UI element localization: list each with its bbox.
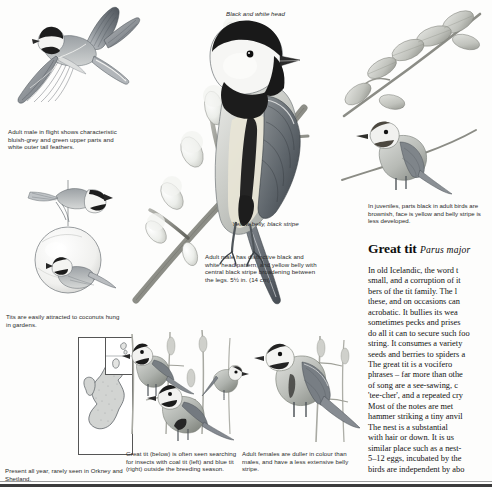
field-guide-page: Adult male in flight shows characteristi… <box>0 0 492 490</box>
page-title: Great tit Parus major <box>368 241 492 257</box>
main-bird-caption: Adult male has distinctive black and whi… <box>205 253 317 283</box>
footer-hairline <box>0 481 492 482</box>
species-common-name: Great tit <box>368 241 417 256</box>
female-caption: Adult females are duller in colour than … <box>242 450 354 473</box>
mixed-flock-caption: Great tit (below) is often seen searchin… <box>126 450 238 473</box>
juvenile-caption: In juveniles, parts black in adult birds… <box>368 202 492 225</box>
juvenile-great-tit-illustration <box>340 110 480 196</box>
head-label: Black and white head <box>226 10 298 18</box>
map-caption: Present all year, rarely seen in Orkney … <box>5 467 125 482</box>
belly-label: Yellow belly, black stripe <box>232 220 312 228</box>
footer-rule <box>0 484 492 487</box>
article-body: In old Icelandic, the word t small, and … <box>368 266 492 475</box>
coconut-caption: Tits are easily attracted to coconuts hu… <box>6 313 122 328</box>
species-scientific-name: Parus major <box>420 244 470 255</box>
article-column: In juveniles, parts black in adult birds… <box>368 196 492 475</box>
coconut-feeder-illustration <box>12 180 124 298</box>
mixed-flock-illustration <box>118 330 244 442</box>
adult-female-great-tit-illustration <box>246 336 376 444</box>
flight-caption: Adult male in flight shows characteristi… <box>8 128 128 151</box>
